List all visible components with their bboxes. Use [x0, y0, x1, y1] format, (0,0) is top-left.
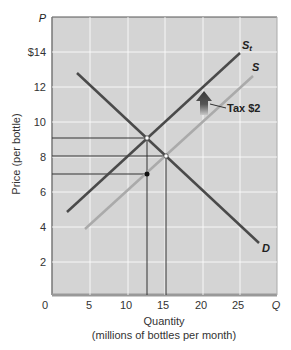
seller-price-marker: [145, 172, 150, 177]
equilibrium-no-tax-marker: [164, 154, 168, 158]
y-axis-title: Price (per bottle): [10, 113, 22, 194]
y-axis-symbol: P: [39, 12, 47, 24]
d-curve-label: D: [262, 242, 270, 254]
x-tick-20: 20: [195, 299, 207, 311]
y-tick-2: 2: [40, 256, 46, 268]
y-tick-14: $14: [28, 46, 46, 58]
y-tick-labels: $14 12 10 8 6 4 2: [28, 46, 46, 268]
x-tick-10: 10: [120, 299, 132, 311]
x-tick-25: 25: [232, 299, 244, 311]
tax-label: Tax $2: [227, 102, 260, 114]
y-tick-12: 12: [34, 81, 46, 93]
x-axis-subtitle: (millions of bottles per month): [92, 329, 236, 341]
y-tick-4: 4: [40, 221, 46, 233]
x-axis-title: Quantity: [144, 315, 185, 327]
x-tick-labels: 0 5 10 15 20 25 Q: [42, 299, 281, 311]
supply-demand-chart: $14 12 10 8 6 4 2 P 0 5 10 15 20 25 Q Qu…: [0, 0, 291, 350]
x-axis-symbol: Q: [272, 299, 281, 311]
equilibrium-with-tax-marker: [145, 136, 149, 140]
y-tick-6: 6: [40, 186, 46, 198]
y-tick-8: 8: [40, 151, 46, 163]
s-curve-label: S: [252, 61, 260, 73]
y-tick-10: 10: [34, 116, 46, 128]
origin-label: 0: [42, 299, 48, 311]
x-tick-5: 5: [86, 299, 92, 311]
x-tick-15: 15: [157, 299, 169, 311]
